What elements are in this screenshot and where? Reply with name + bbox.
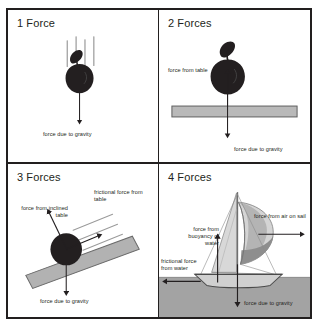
- label-gravity-two-forces: force due to gravity: [234, 146, 283, 153]
- label-gravity-one-force: force due to gravity: [43, 131, 92, 138]
- label-friction-force-water: frictional force from water: [161, 258, 209, 272]
- label-friction-force-table: frictional force from table: [94, 189, 156, 203]
- label-gravity-four-forces: force due to gravity: [244, 300, 293, 307]
- panel-four-forces: 4 Forces: [159, 164, 310, 318]
- label-table-force: force from table: [168, 67, 208, 74]
- two-forces-artwork: [159, 10, 310, 162]
- inclined-table-surface: [26, 236, 139, 288]
- label-gravity-three-forces: force due to gravity: [40, 298, 89, 305]
- table-surface: [172, 106, 297, 117]
- label-air-force: force from air on sail: [254, 213, 306, 220]
- label-incline-force: force from inclined table: [12, 205, 68, 219]
- one-force-artwork: [8, 10, 158, 162]
- three-forces-artwork: [8, 164, 158, 318]
- panel-two-forces: 2 Forces: [159, 10, 310, 164]
- spinnaker-sail: [238, 202, 273, 264]
- panel-grid: 1 Force: [6, 8, 312, 319]
- apple-icon: [66, 50, 94, 93]
- label-buoyancy-force: force from buoyancy of water: [173, 226, 219, 247]
- force-diagram-figure: 1 Force: [0, 0, 318, 326]
- panel-three-forces: 3 Forces: [8, 164, 159, 318]
- hull: [195, 274, 282, 287]
- panel-one-force: 1 Force: [8, 10, 159, 164]
